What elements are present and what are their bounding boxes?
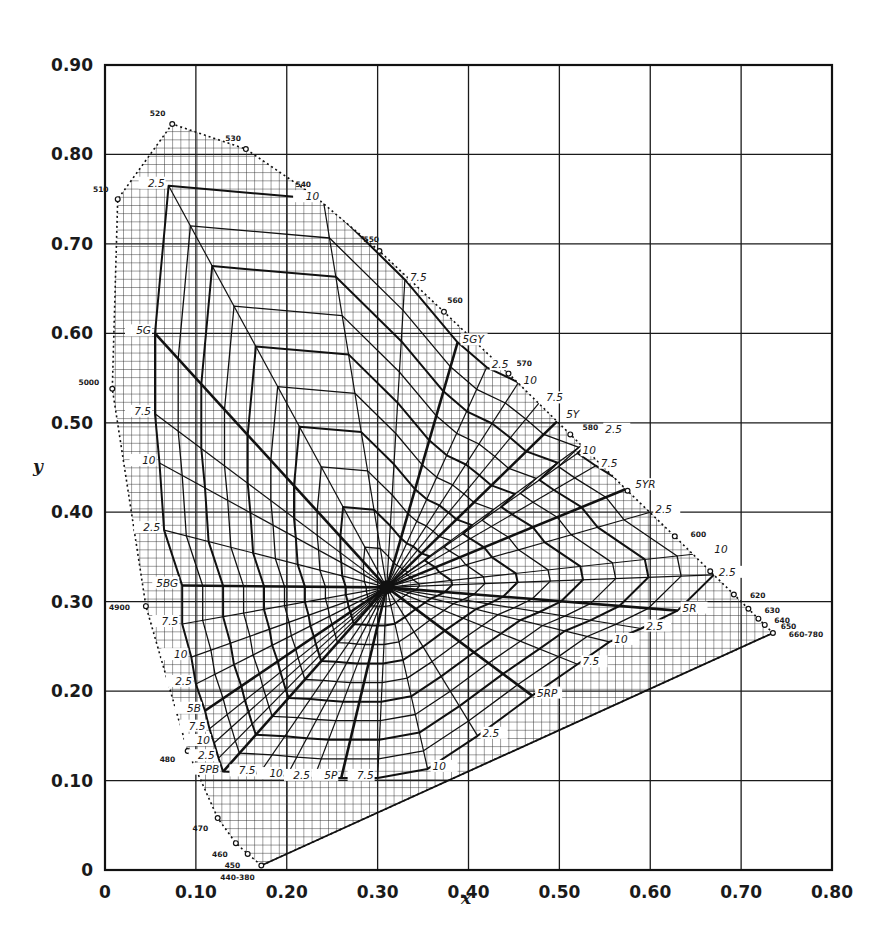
wavelength-marker: [442, 309, 447, 314]
hue-label: 10: [197, 734, 211, 746]
hue-label: 5GY: [463, 333, 486, 345]
cie-chromaticity-chart: 00.100.200.300.400.500.600.700.80 00.100…: [0, 0, 893, 949]
wavelength-label: 560: [447, 296, 463, 305]
x-tick-label: 0.30: [357, 882, 399, 902]
y-tick-labels: 00.100.200.300.400.500.600.700.800.90: [51, 55, 93, 880]
wavelength-label: 600: [691, 530, 707, 539]
wavelength-label: 480: [160, 755, 176, 764]
hue-label: 2.5: [143, 521, 160, 533]
hue-label: 2.5: [198, 749, 215, 761]
y-axis-title: y: [32, 456, 44, 476]
hue-label: 5YR: [635, 478, 655, 490]
y-tick-label: 0.30: [51, 592, 93, 612]
hue-label: 10: [614, 633, 628, 645]
hue-label: 10: [583, 444, 597, 456]
x-tick-label: 0: [99, 882, 111, 902]
wavelength-marker: [243, 147, 248, 152]
wavelength-label: 470: [193, 824, 209, 833]
hue-label: 10: [174, 648, 188, 660]
hue-label: 2.5: [719, 566, 736, 578]
y-tick-label: 0: [81, 860, 93, 880]
wavelength-label: 550: [363, 235, 379, 244]
hue-label: 10: [523, 374, 537, 386]
hue-label: 7.5: [357, 769, 374, 781]
hue-label: 5BG: [156, 577, 178, 589]
x-tick-label: 0.70: [720, 882, 762, 902]
hue-label: 2.5: [646, 620, 663, 632]
hue-label: 5PB: [199, 763, 219, 775]
x-tick-label: 0.60: [629, 882, 671, 902]
wavelength-marker: [762, 623, 767, 628]
y-tick-label: 0.90: [51, 55, 93, 75]
x-tick-label: 0.10: [175, 882, 217, 902]
y-tick-label: 0.60: [51, 323, 93, 343]
wavelength-marker: [245, 852, 250, 857]
x-tick-label: 0.20: [266, 882, 308, 902]
hue-label: 2.5: [655, 503, 672, 515]
hue-label: 5R: [683, 602, 697, 614]
wavelength-marker: [746, 606, 751, 611]
wavelength-label: 540: [295, 180, 311, 189]
hue-label: 10: [306, 190, 320, 202]
wavelength-marker: [259, 863, 264, 868]
hue-label: 7.5: [134, 405, 151, 417]
y-tick-label: 0.50: [51, 413, 93, 433]
wavelength-marker: [708, 569, 713, 574]
hue-label: 5B: [187, 702, 201, 714]
x-tick-labels: 00.100.200.300.400.500.600.700.80: [99, 882, 853, 902]
x-tick-label: 0.50: [538, 882, 580, 902]
hue-label: 5Y: [566, 408, 581, 420]
hue-label: 7.5: [239, 764, 256, 776]
wavelength-marker: [625, 488, 630, 493]
white-point-marker: [380, 580, 394, 594]
hue-label: 5G: [136, 324, 151, 336]
y-tick-label: 0.40: [51, 502, 93, 522]
wavelength-marker: [215, 816, 220, 821]
wavelength-marker: [377, 249, 382, 254]
wavelength-marker: [170, 122, 175, 127]
wavelength-marker: [115, 197, 120, 202]
hue-label: 5RP: [537, 687, 558, 699]
wavelength-label: 460: [212, 850, 228, 859]
wavelength-label: 530: [225, 134, 241, 143]
wavelength-label: 580: [583, 423, 599, 432]
wavelength-label: 520: [150, 109, 166, 118]
wavelength-marker: [110, 386, 115, 391]
wavelength-label: 570: [516, 359, 532, 368]
hue-label: 10: [433, 760, 447, 772]
wavelength-label: 5000: [78, 378, 99, 387]
hue-label: 2.5: [293, 769, 310, 781]
hue-label: 2.5: [483, 727, 500, 739]
hue-label: 2.5: [492, 358, 509, 370]
wavelength-label: 510: [93, 185, 109, 194]
x-axis-title: x: [460, 888, 472, 908]
y-tick-label: 0.80: [51, 144, 93, 164]
wavelength-label: 660-780: [789, 630, 823, 639]
hue-label: 5P: [324, 769, 338, 781]
hue-label: 2.5: [605, 423, 622, 435]
wavelength-label: 630: [764, 606, 780, 615]
wavelength-label: 4900: [109, 603, 130, 612]
hue-label: 7.5: [410, 271, 427, 283]
hue-label: 2.5: [148, 177, 165, 189]
wavelength-marker: [756, 616, 761, 621]
y-tick-label: 0.20: [51, 681, 93, 701]
y-tick-label: 0.10: [51, 771, 93, 791]
wavelength-marker: [506, 371, 511, 376]
wavelength-marker: [771, 631, 776, 636]
wavelength-marker: [731, 592, 736, 597]
wavelength-label: 440-380: [220, 873, 254, 882]
hue-label: 7.5: [583, 655, 600, 667]
y-tick-label: 0.70: [51, 234, 93, 254]
x-tick-label: 0.80: [811, 882, 853, 902]
hue-label: 7.5: [189, 720, 206, 732]
hue-label: 2.5: [175, 675, 192, 687]
wavelength-marker: [672, 534, 677, 539]
hue-label: 7.5: [162, 615, 179, 627]
hue-label: 10: [714, 543, 728, 555]
wavelength-marker: [143, 604, 148, 609]
wavelength-marker: [568, 432, 573, 437]
hue-label: 7.5: [601, 457, 618, 469]
hue-label: 10: [142, 454, 156, 466]
hue-label: 7.5: [546, 391, 563, 403]
